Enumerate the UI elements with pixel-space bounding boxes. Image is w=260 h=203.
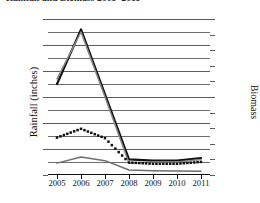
x-axis-tick	[177, 175, 178, 179]
chart-container: Rainfall and Biomass 2005–2011 Rainfall …	[0, 0, 260, 203]
x-axis-tick-label: 2008	[120, 179, 137, 188]
x-axis-tick	[153, 175, 154, 179]
y-axis-tick-right	[210, 19, 215, 20]
y-axis-title-right: Biomass	[249, 84, 260, 118]
x-axis-tick-label: 2009	[144, 179, 161, 188]
chart-title: Rainfall and Biomass 2005–2011	[6, 0, 206, 5]
x-axis-tick-label: 2005	[48, 179, 65, 188]
y-axis-tick-right	[210, 97, 215, 98]
y-axis-tick-left	[43, 149, 48, 150]
x-axis-tick-label: 2006	[72, 179, 89, 188]
y-axis-tick-left	[43, 45, 48, 46]
x-axis-tick	[57, 175, 58, 179]
y-axis-tick-right	[210, 35, 215, 36]
y-axis-tick-right	[210, 113, 215, 114]
y-axis-tick-left	[43, 19, 48, 20]
plot-area: 0204060801001200501001502002503003504004…	[48, 19, 210, 175]
x-axis-tick-label: 2011	[193, 179, 210, 188]
x-axis-tick	[105, 175, 106, 179]
y-axis-tick-right	[210, 81, 215, 82]
series-layer	[48, 19, 210, 175]
y-axis-tick-left	[43, 71, 48, 72]
y-axis-tick-right	[210, 175, 215, 176]
y-axis-tick-right	[210, 66, 215, 67]
y-axis-tick-left	[43, 97, 48, 98]
x-axis-tick	[81, 175, 82, 179]
y-axis-tick-right	[210, 50, 215, 51]
y-axis-tick-left	[43, 175, 48, 176]
x-axis-tick	[201, 175, 202, 179]
y-axis-tick-right	[210, 159, 215, 160]
x-axis-tick-label: 2007	[96, 179, 113, 188]
y-axis-title-left: Rainfall (inches)	[28, 66, 39, 136]
series-1-line	[57, 32, 201, 163]
y-axis-tick-left	[43, 123, 48, 124]
x-axis-tick-label: 2010	[168, 179, 185, 188]
y-axis-tick-right	[210, 128, 215, 129]
y-axis-tick-right	[210, 144, 215, 145]
x-axis-tick	[129, 175, 130, 179]
series-0-line	[57, 29, 201, 160]
